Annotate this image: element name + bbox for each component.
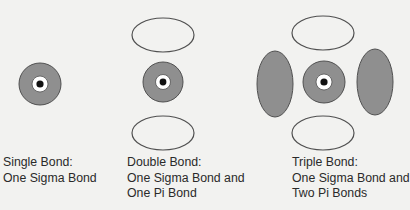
caption-title: Triple Bond: bbox=[292, 155, 410, 171]
double-bond-orbitals bbox=[132, 18, 194, 150]
caption-line: One Sigma Bond and bbox=[292, 171, 410, 187]
pi-lobe-bottom bbox=[132, 116, 194, 150]
pi-lobe-bottom bbox=[292, 116, 354, 150]
nucleus-dot bbox=[160, 79, 167, 86]
pi-lobe-left bbox=[257, 51, 293, 117]
caption-title: Single Bond: bbox=[3, 155, 97, 171]
nucleus-dot bbox=[36, 80, 43, 87]
pi-lobe-right bbox=[357, 49, 393, 115]
single-bond-orbitals bbox=[19, 63, 61, 105]
double-bond-caption: Double Bond: One Sigma Bond and One Pi B… bbox=[127, 155, 245, 202]
caption-line: One Pi Bond bbox=[127, 186, 245, 202]
pi-lobe-top bbox=[292, 16, 354, 50]
nucleus-dot bbox=[320, 78, 327, 85]
pi-lobe-top bbox=[132, 18, 194, 52]
caption-line: Two Pi Bonds bbox=[292, 186, 410, 202]
caption-title: Double Bond: bbox=[127, 155, 245, 171]
triple-bond-orbitals bbox=[257, 16, 393, 150]
triple-bond-caption: Triple Bond: One Sigma Bond and Two Pi B… bbox=[292, 155, 410, 202]
caption-line: One Sigma Bond bbox=[3, 171, 97, 187]
caption-line: One Sigma Bond and bbox=[127, 171, 245, 187]
single-bond-caption: Single Bond: One Sigma Bond bbox=[3, 155, 97, 186]
